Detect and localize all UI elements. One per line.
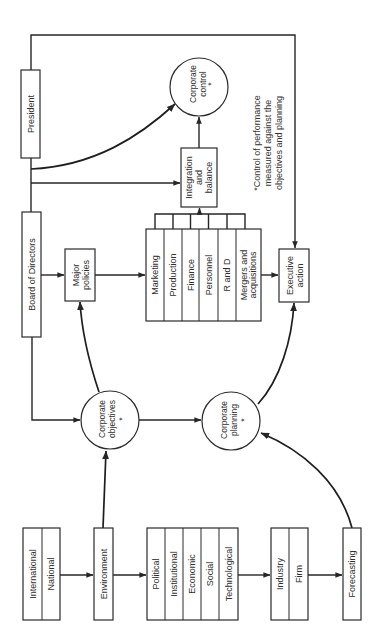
corporate-control-label-1: Corporate	[188, 65, 198, 103]
footnote-line-1: *Control of performance	[252, 95, 262, 191]
function-personnel: Personnel	[204, 255, 214, 296]
node-president: President	[21, 70, 40, 158]
footnote-line-3: objectives and planning	[274, 96, 284, 190]
edge-president-to-corporate-control	[31, 104, 175, 169]
function-r-and-d: R and D	[222, 258, 232, 292]
corporate-planning-label-1: Corporate	[219, 401, 229, 439]
node-scope: Industry Firm	[271, 528, 308, 620]
function-production: Production	[168, 253, 178, 296]
integration-label-2: and	[194, 170, 204, 185]
corporate-objectives-label-2: objectives	[107, 400, 117, 438]
node-board-of-directors: Board of Directors	[22, 212, 41, 337]
node-forecasting: Forecasting	[343, 528, 361, 620]
edge-forecasting-to-planning	[261, 433, 352, 528]
integration-label-1: Integration	[184, 156, 194, 199]
edge-planning-to-executive-action	[258, 303, 294, 404]
factor-technological: Technological	[224, 547, 234, 602]
node-major-policies: Major policies	[65, 249, 95, 301]
major-policies-label-1: Major	[71, 264, 81, 287]
executive-action-label-2: action	[295, 263, 305, 287]
function-marketing: Marketing	[150, 255, 160, 295]
edge-board-to-objectives	[32, 337, 80, 420]
edge-objectives-to-major-policies	[80, 302, 99, 392]
factor-social: Social	[205, 562, 215, 587]
level-national: National	[46, 557, 56, 590]
integration-label-3: balance	[204, 162, 214, 194]
factor-political: Political	[151, 558, 161, 589]
node-functional-areas: Marketing Production Finance Personnel R…	[146, 229, 261, 321]
president-label: President	[26, 94, 36, 133]
node-corporate-planning: Corporate planning *	[202, 392, 260, 450]
node-levels: International National	[23, 528, 60, 620]
edge-environment-to-objectives	[103, 451, 106, 528]
node-corporate-objectives: Corporate objectives *	[81, 391, 139, 449]
level-international: International	[28, 549, 38, 599]
management-system-diagram: President Board of Directors Major polic…	[0, 0, 383, 644]
function-mergers-line-2: acquisitions	[248, 251, 258, 299]
node-executive-action: Executive action	[279, 249, 309, 302]
functions-bracket	[155, 214, 245, 229]
footnote: *Control of performance measured against…	[252, 95, 284, 191]
function-mergers-line-1: Mergers and	[239, 250, 249, 301]
major-policies-label-2: policies	[81, 259, 91, 290]
factor-economic: Economic	[187, 554, 197, 594]
scope-industry: Industry	[275, 557, 285, 590]
node-integration-and-balance: Integration and balance	[181, 148, 217, 207]
factor-institutional: Institutional	[169, 551, 179, 597]
function-finance: Finance	[186, 259, 196, 291]
executive-action-label-1: Executive	[285, 256, 295, 295]
node-environment-factors: Political Institutional Economic Social …	[147, 528, 238, 620]
node-corporate-control: Corporate control *	[170, 58, 228, 116]
footnote-line-2: measured against the	[263, 100, 273, 187]
corporate-planning-label-2: planning	[229, 404, 239, 436]
environment-label: Environment	[99, 548, 109, 599]
corporate-objectives-label-1: Corporate	[97, 400, 107, 438]
scope-firm: Firm	[294, 565, 304, 583]
board-label: Board of Directors	[27, 238, 37, 311]
forecasting-label: Forecasting	[347, 550, 357, 597]
node-environment: Environment	[94, 528, 113, 620]
